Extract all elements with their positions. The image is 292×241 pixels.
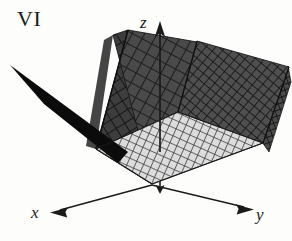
axis-x-line: [60, 185, 152, 210]
panel-label: VI: [17, 8, 41, 30]
axis-label-x: x: [31, 204, 39, 221]
surface-plot-svg: [0, 0, 292, 241]
axis-y: [152, 185, 254, 214]
surface-mesh-group: [10, 30, 291, 184]
axis-label-z: z: [140, 14, 147, 31]
axis-x-arrowhead: [50, 207, 68, 217]
figure-container: VI z x y: [0, 0, 292, 241]
axis-x: [50, 185, 152, 217]
axis-y-line: [152, 185, 244, 207]
axis-y-arrowhead: [236, 205, 254, 215]
axis-label-y: y: [256, 206, 264, 223]
